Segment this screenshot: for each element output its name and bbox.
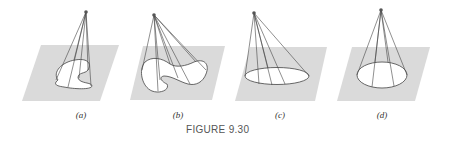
panel-label-a: (a) xyxy=(76,110,87,120)
panel-a-cone xyxy=(22,10,119,101)
panel-b-cone xyxy=(130,13,225,100)
panel-label-d: (d) xyxy=(377,110,388,120)
panel-d-cone xyxy=(337,8,430,101)
base-ellipse-c xyxy=(245,68,309,85)
apex-b-icon xyxy=(152,13,156,17)
base-ellipse-d xyxy=(357,62,407,88)
panel-label-c: (c) xyxy=(275,110,285,120)
panel-label-b: (b) xyxy=(173,110,184,120)
apex-c-icon xyxy=(252,11,256,15)
panel-c-cone xyxy=(235,11,327,101)
figure-diagram xyxy=(0,0,449,144)
figure-caption: FIGURE 9.30 xyxy=(186,124,249,135)
apex-d-icon xyxy=(379,8,383,12)
apex-a-icon xyxy=(84,10,88,14)
